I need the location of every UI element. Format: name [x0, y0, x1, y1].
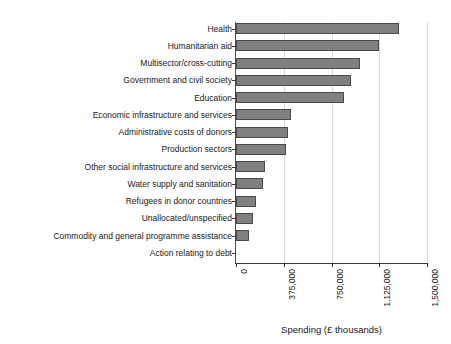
y-tick [232, 253, 236, 254]
y-tick [232, 63, 236, 64]
bar-row [236, 40, 379, 51]
bar-row [236, 213, 253, 224]
bar-row [236, 161, 265, 172]
x-tick [284, 263, 285, 267]
y-tick [232, 218, 236, 219]
category-label: Refugees in donor countries [0, 196, 232, 207]
bar [236, 247, 237, 258]
gridline [427, 22, 428, 263]
bar-row [236, 178, 263, 189]
category-label: Education [0, 93, 232, 104]
bar [236, 144, 286, 155]
bar [236, 213, 253, 224]
bar-row [236, 75, 351, 86]
bar [236, 40, 379, 51]
bar [236, 75, 351, 86]
x-tick-label: 0 [240, 269, 249, 274]
category-label: Humanitarian aid [0, 41, 232, 52]
bar-row [236, 23, 399, 34]
bar-row [236, 196, 256, 207]
x-tick [379, 263, 380, 267]
y-tick [232, 115, 236, 116]
category-label: Commodity and general programme assistan… [0, 231, 232, 242]
bar [236, 127, 288, 138]
x-axis-title: Spending (£ thousands) [236, 324, 427, 335]
bar-row [236, 144, 286, 155]
bar [236, 92, 344, 103]
bar-chart: HealthHumanitarian aidMultisector/cross-… [0, 0, 451, 344]
bar [236, 161, 265, 172]
bar [236, 196, 256, 207]
x-tick-label: 375,000 [288, 269, 297, 300]
y-tick [232, 201, 236, 202]
y-tick [232, 132, 236, 133]
bar [236, 109, 291, 120]
bar-row [236, 127, 288, 138]
bar [236, 230, 249, 241]
category-label: Action relating to debt [0, 248, 232, 259]
bar-row [236, 247, 237, 258]
bar [236, 178, 263, 189]
x-tick [427, 263, 428, 267]
y-tick [232, 80, 236, 81]
category-label: Production sectors [0, 144, 232, 155]
x-tick-label: 1,125,000 [383, 269, 392, 307]
bar-row [236, 58, 360, 69]
category-label: Economic infrastructure and services [0, 110, 232, 121]
category-label: Health [0, 24, 232, 35]
y-tick [232, 46, 236, 47]
y-tick [232, 167, 236, 168]
x-tick-label: 1,500,000 [431, 269, 440, 307]
y-tick [232, 29, 236, 30]
category-label: Administrative costs of donors [0, 127, 232, 138]
x-tick [236, 263, 237, 267]
category-label: Government and civil society [0, 75, 232, 86]
bar [236, 23, 399, 34]
category-label: Unallocated/unspecified [0, 213, 232, 224]
category-label: Water supply and sanitation [0, 179, 232, 190]
y-tick [232, 98, 236, 99]
bar-row [236, 92, 344, 103]
category-label: Other social infrastructure and services [0, 162, 232, 173]
category-label: Multisector/cross-cutting [0, 58, 232, 69]
x-tick-label: 750,000 [336, 269, 345, 300]
gridline [379, 22, 380, 263]
x-tick [332, 263, 333, 267]
y-tick [232, 184, 236, 185]
y-tick [232, 149, 236, 150]
y-tick [232, 236, 236, 237]
bar [236, 58, 360, 69]
bar-row [236, 109, 291, 120]
bar-row [236, 230, 249, 241]
